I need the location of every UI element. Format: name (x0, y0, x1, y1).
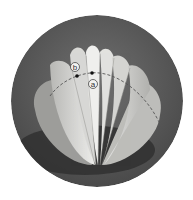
label-b: b (71, 63, 80, 73)
point-a-marker (90, 71, 94, 75)
label-a: a (89, 80, 98, 90)
photo-figure: b a (0, 0, 193, 200)
circular-photo (11, 15, 183, 187)
paper-dome-illustration: b a (0, 0, 193, 200)
svg-text:b: b (73, 63, 78, 72)
svg-text:a: a (91, 80, 96, 89)
point-b-marker (75, 74, 79, 78)
